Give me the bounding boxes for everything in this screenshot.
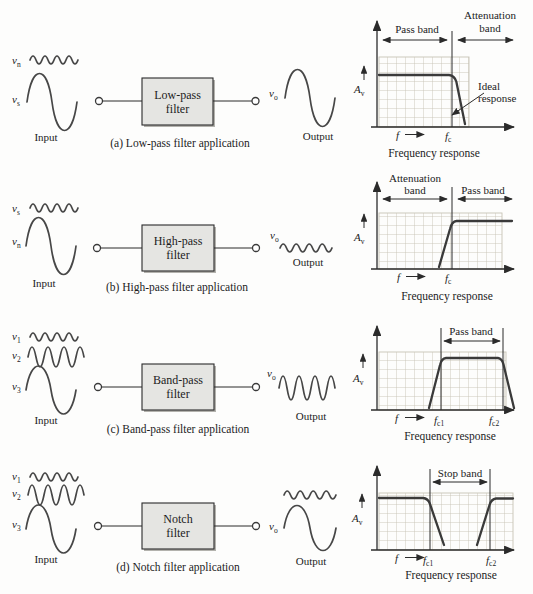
input-waveform-v3-d: [26, 505, 76, 553]
row-caption-d: (d) Notch filter application: [116, 561, 240, 574]
input-signal-label-v1-d: v1: [12, 470, 21, 485]
output-signal-label-vo-a: vo: [269, 87, 278, 102]
filter-label-line2-a: filter: [166, 102, 189, 116]
cutoff-label-fc2-c: fc2: [489, 414, 499, 429]
graph-caption-a: Frequency response: [388, 147, 480, 160]
output-signal-label-vo-d: vo: [269, 520, 278, 535]
output-signal-label-vo-b: vo: [270, 229, 279, 244]
input-caption-d: Input: [34, 553, 57, 565]
pass-band-label-c: Pass band: [449, 325, 493, 337]
row-c-band-pass: v1 v2 v3 Input Band-pass filter (c) Band…: [12, 325, 514, 443]
row-caption-c: (c) Band-pass filter application: [107, 423, 250, 436]
row-caption-b: (b) High-pass filter application: [106, 281, 248, 294]
cutoff-label-fc2-d: fc2: [486, 554, 496, 569]
output-waveform-sine-d: [284, 506, 336, 551]
filter-label-line2-c: filter: [166, 387, 189, 401]
input-waveform-v1-d: [30, 473, 78, 481]
input-terminal-b: [94, 245, 101, 252]
filter-label-line2-d: filter: [166, 526, 189, 540]
pass-band-label-b: Pass band: [461, 184, 505, 196]
ideal-response-label-line1: Ideal: [478, 80, 500, 92]
input-terminal-a: [96, 98, 103, 105]
graph-caption-b: Frequency response: [401, 290, 493, 303]
gain-label-av-b: Av: [353, 231, 365, 246]
input-caption-b: Input: [32, 277, 55, 289]
gain-label-av-a: Av: [353, 83, 365, 98]
output-caption-c: Output: [296, 410, 327, 422]
ideal-response-label-line2: response: [478, 92, 517, 104]
input-waveform-v1-c: [30, 333, 78, 341]
pass-band-label-a: Pass band: [395, 23, 439, 35]
output-waveform-b: [280, 244, 332, 252]
freq-label-f-d: f: [395, 552, 400, 564]
input-signal-label-v3-d: v3: [12, 518, 21, 533]
stop-band-label-d: Stop band: [438, 467, 483, 479]
frequency-response-graph-a: Pass band Attenuation band Ideal respons…: [353, 9, 517, 160]
output-terminal-d: [253, 523, 260, 530]
row-b-high-pass: vs vn Input High-pass filter (b) High-pa…: [12, 172, 514, 303]
cutoff-label-fc-b: fc: [445, 272, 452, 287]
frequency-response-graph-d: Stop band Av f fc1 fc2 Frequency respons…: [351, 466, 514, 582]
graph-caption-d: Frequency response: [405, 569, 497, 582]
filter-applications-figure: vn vs Input Low-pass filter (a) Low-pass…: [0, 0, 533, 594]
frequency-response-graph-c: Pass band Av f fc1 fc2 Frequency respons…: [352, 325, 514, 443]
filter-label-line2-b: filter: [166, 248, 189, 262]
freq-label-f-a: f: [396, 129, 401, 141]
input-terminal-d: [95, 523, 102, 530]
signal-waveform-b: [30, 204, 78, 212]
noise-waveform-a: [30, 56, 78, 64]
input-terminal-c: [95, 384, 102, 391]
row-d-notch: v1 v2 v3 Input Notch filter (d) Notch fi…: [12, 466, 514, 582]
figure-canvas: vn vs Input Low-pass filter (a) Low-pass…: [0, 0, 533, 594]
row-a-low-pass: vn vs Input Low-pass filter (a) Low-pass…: [12, 9, 517, 160]
input-signal-label-vs-a: vs: [12, 93, 20, 108]
output-caption-d: Output: [296, 555, 327, 567]
filter-label-line1-b: High-pass: [154, 234, 203, 248]
grid-a: [379, 57, 469, 127]
gain-label-av-c: Av: [352, 372, 364, 387]
output-terminal-a: [252, 98, 259, 105]
filter-label-line1-a: Low-pass: [154, 88, 201, 102]
output-signal-label-vo-c: vo: [267, 367, 276, 382]
freq-label-f-b: f: [397, 271, 402, 283]
output-terminal-c: [253, 384, 260, 391]
attenuation-band-label-line2-b: band: [404, 184, 426, 196]
input-signal-label-vn-a: vn: [12, 54, 21, 69]
output-waveform-ripple-d: [284, 491, 336, 499]
input-caption-c: Input: [34, 414, 57, 426]
input-signal-label-v1-c: v1: [12, 330, 21, 345]
signal-waveform-a: [27, 74, 77, 131]
attenuation-band-label-line2-a: band: [479, 22, 501, 34]
output-waveform-a: [285, 70, 335, 127]
filter-label-line1-d: Notch: [163, 512, 192, 526]
row-caption-a: (a) Low-pass filter application: [110, 137, 250, 150]
input-waveform-v2-c: [28, 347, 84, 367]
input-signal-label-v3-c: v3: [12, 380, 21, 395]
noise-waveform-b: [26, 218, 76, 275]
frequency-response-graph-b: Attenuation band Pass band Av f fc Frequ…: [353, 172, 514, 303]
output-waveform-c: [279, 376, 335, 400]
freq-label-f-c: f: [395, 412, 400, 424]
input-signal-label-vs-b: vs: [12, 202, 20, 217]
input-signal-label-vn-b: vn: [12, 235, 21, 250]
filter-label-line1-c: Band-pass: [153, 373, 203, 387]
gain-label-av-d: Av: [351, 512, 363, 527]
output-caption-a: Output: [303, 130, 334, 142]
output-terminal-b: [253, 245, 260, 252]
cutoff-label-fc1-c: fc1: [434, 414, 444, 429]
attenuation-band-label-line1-a: Attenuation: [464, 9, 516, 21]
input-signal-label-v2-d: v2: [12, 487, 21, 502]
input-waveform-v2-d: [28, 485, 84, 505]
output-caption-b: Output: [293, 256, 324, 268]
grid-d: [379, 493, 513, 550]
cutoff-label-fc1-d: fc1: [423, 554, 433, 569]
input-signal-label-v2-c: v2: [12, 349, 21, 364]
cutoff-label-fc-a: fc: [445, 130, 452, 145]
input-caption-a: Input: [34, 131, 57, 143]
input-waveform-v3-c: [26, 366, 76, 414]
attenuation-band-label-line1-b: Attenuation: [389, 172, 441, 184]
graph-caption-c: Frequency response: [404, 430, 496, 443]
